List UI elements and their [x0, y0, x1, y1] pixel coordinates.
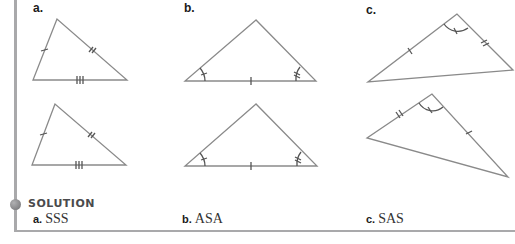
solution-heading: SOLUTION [28, 197, 95, 210]
solution-bullet-icon [10, 199, 21, 210]
triangle-b-bottom [185, 104, 317, 170]
answer-a-value: SSS [45, 211, 68, 226]
answer-c-letter: c. [366, 213, 375, 225]
answer-b-letter: b. [182, 213, 192, 225]
triangle-b-top [185, 20, 316, 85]
triangle-c-bottom [367, 94, 508, 177]
answer-b-value: ASA [195, 211, 223, 226]
triangle-c-top [368, 14, 513, 82]
answer-a: a.SSS [33, 211, 69, 227]
triangle-a-bottom [32, 104, 126, 169]
answer-c: c.SAS [366, 211, 404, 227]
answer-a-letter: a. [33, 213, 42, 225]
answer-b: b.ASA [182, 211, 223, 227]
answer-c-value: SAS [378, 211, 404, 226]
triangle-a-top [33, 19, 127, 84]
